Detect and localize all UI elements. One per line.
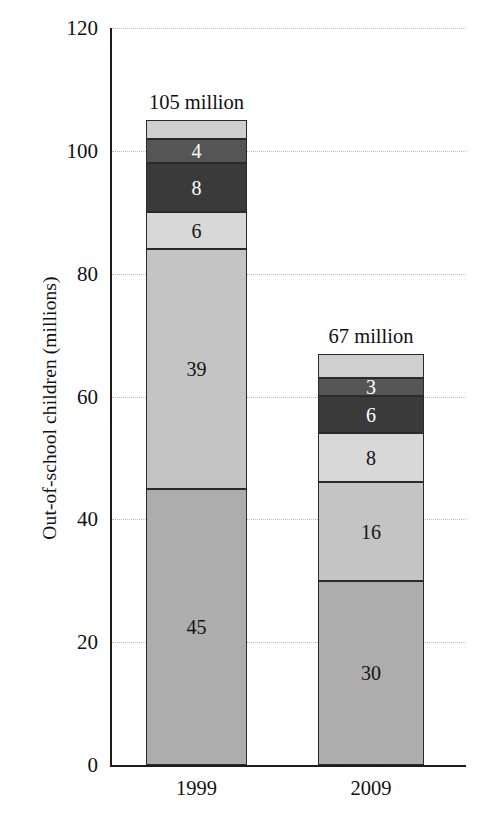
bar-segment-1999-light-gray[interactable]: 39 xyxy=(146,249,247,489)
bar-segment-2009-mid-gray[interactable]: 30 xyxy=(318,581,424,765)
y-tick-label-40: 40 xyxy=(38,509,98,530)
y-tick-label-80: 80 xyxy=(38,263,98,284)
bar-segment-2009-darkest[interactable]: 6 xyxy=(318,396,424,433)
bar-segment-value-label: 6 xyxy=(366,405,376,425)
bar-segment-2009-top-light[interactable] xyxy=(318,354,424,379)
plot-area: 48639453681630 xyxy=(110,28,466,767)
y-tick-label-100: 100 xyxy=(38,140,98,161)
bar-2009[interactable]: 3681630 xyxy=(318,354,424,765)
y-tick-label-20: 20 xyxy=(38,632,98,653)
bar-segment-1999-top-light[interactable] xyxy=(146,120,247,138)
bar-segment-2009-mid-dark[interactable]: 3 xyxy=(318,378,424,396)
bar-segment-value-label: 4 xyxy=(192,141,202,161)
bar-total-label-1999: 105 million xyxy=(106,92,287,113)
bar-segment-2009-pale[interactable]: 8 xyxy=(318,433,424,482)
bar-segment-value-label: 39 xyxy=(187,359,207,379)
bar-segment-1999-pale[interactable]: 6 xyxy=(146,212,247,249)
gridline-120 xyxy=(112,28,466,29)
bar-1999[interactable]: 4863945 xyxy=(146,120,247,765)
x-axis-line xyxy=(110,765,466,767)
y-tick-label-60: 60 xyxy=(38,386,98,407)
bar-segment-value-label: 45 xyxy=(187,617,207,637)
y-axis-line xyxy=(110,28,112,767)
bar-segment-1999-mid-gray[interactable]: 45 xyxy=(146,489,247,765)
bar-segment-value-label: 8 xyxy=(192,178,202,198)
bar-segment-value-label: 30 xyxy=(361,663,381,683)
chart-root: Out-of-school children (millions) 486394… xyxy=(0,0,492,825)
x-tick-label-2009: 2009 xyxy=(278,778,464,799)
y-tick-label-120: 120 xyxy=(38,18,98,39)
bar-segment-value-label: 6 xyxy=(192,221,202,241)
bar-total-label-2009: 67 million xyxy=(278,326,464,347)
bar-segment-1999-mid-dark[interactable]: 4 xyxy=(146,139,247,164)
bar-segment-value-label: 3 xyxy=(366,378,376,396)
y-tick-label-0: 0 xyxy=(38,755,98,776)
bar-segment-value-label: 8 xyxy=(366,448,376,468)
bar-segment-1999-darkest[interactable]: 8 xyxy=(146,163,247,212)
bar-segment-value-label: 16 xyxy=(361,522,381,542)
x-tick-label-1999: 1999 xyxy=(106,778,287,799)
y-axis-title: Out-of-school children (millions) xyxy=(39,198,61,618)
bar-segment-2009-light-gray[interactable]: 16 xyxy=(318,482,424,580)
